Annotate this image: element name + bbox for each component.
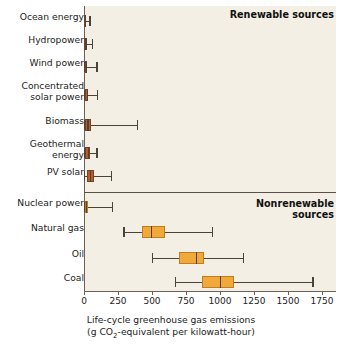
x-axis-tick [220,291,221,295]
x-axis-tick [322,291,323,295]
whisker-cap-max [97,90,98,100]
median-line [87,119,88,131]
group-title-renewable: Renewable sources [230,9,334,20]
boxplot-box [202,276,235,288]
median-line [220,276,221,288]
median-line [90,170,91,182]
median-line [151,226,152,238]
group-title-nonrenewable: Nonrenewable sources [256,198,334,220]
whisker-cap-max [111,171,112,181]
whisker-cap-max [96,148,97,158]
whisker-cap-max [89,16,90,26]
chart-figure: Ocean energyHydropowerWind powerConcentr… [0,0,342,353]
median-line [86,201,87,213]
x-axis-tick [254,291,255,295]
whisker-cap-max [243,253,244,263]
boxplot-row [0,251,342,265]
median-line [86,61,87,73]
whisker-cap-min [84,171,85,181]
boxplot-row [0,225,342,239]
whisker-cap-max [112,202,113,212]
whisker-cap-max [137,120,138,130]
boxplot-row [0,146,342,160]
boxplot-box [142,226,164,238]
boxplot-row [0,88,342,102]
x-axis-tick [84,291,85,295]
median-line [88,147,89,159]
boxplot-box [179,252,204,264]
median-line [196,252,197,264]
whisker-cap-max [96,62,97,72]
whisker-cap-max [92,39,93,49]
whisker-line [84,207,112,208]
whisker-cap-max [312,277,313,287]
whisker-line [84,125,137,126]
median-line [87,89,88,101]
x-axis-title-line1: Life-cycle greenhouse gas emissions [87,314,255,325]
median-line [85,38,86,50]
x-axis-tick [288,291,289,295]
whisker-cap-min [175,277,176,287]
whisker-line [123,232,211,233]
boxplot-row [0,275,342,289]
x-axis-title-line2: (g CO2-equivalent per kilowatt-hour) [0,326,342,342]
whisker-line [175,282,312,283]
group-divider [84,192,336,193]
boxplot-row [0,60,342,74]
boxplot-row [0,169,342,183]
x-axis-title: Life-cycle greenhouse gas emissions(g CO… [0,314,342,342]
boxplot-row [0,37,342,51]
boxplot-row [0,118,342,132]
whisker-cap-max [212,227,213,237]
x-axis-tick [186,291,187,295]
median-line [85,15,86,27]
whisker-cap-min [123,227,124,237]
x-axis-tick [152,291,153,295]
x-axis-tick-label: 1750 [302,296,342,306]
x-axis-tick [118,291,119,295]
x-axis-line [84,291,336,292]
whisker-cap-min [152,253,153,263]
